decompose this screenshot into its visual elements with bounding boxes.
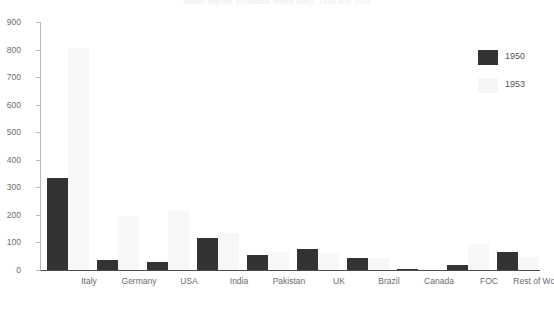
x-axis-line: [40, 270, 540, 271]
bar-group: [47, 22, 89, 270]
y-axis-tick-label: 800: [0, 46, 21, 55]
bar: [297, 249, 318, 270]
y-axis-tick: [36, 160, 41, 161]
y-axis-line: [40, 22, 41, 270]
y-axis-tick: [36, 270, 41, 271]
x-axis-tick-label: Rest of World: [494, 276, 554, 286]
y-axis-tick: [36, 242, 41, 243]
bar-group: [297, 22, 339, 270]
bar: [497, 252, 518, 270]
y-axis-tick: [36, 22, 41, 23]
bar: [347, 258, 368, 270]
bar-group: [247, 22, 289, 270]
y-axis-tick-label: 600: [0, 101, 21, 110]
bar-group: [397, 22, 439, 270]
light-swatch: [478, 78, 498, 93]
bar-chart: Wheat imports (thousand metric tons), 19…: [0, 0, 554, 309]
bar-group: [347, 22, 389, 270]
bar: [168, 211, 189, 270]
bar: [397, 269, 418, 270]
y-axis-tick-label: 700: [0, 73, 21, 82]
bar: [68, 48, 89, 270]
y-axis-tick-label: 300: [0, 183, 21, 192]
y-axis-tick: [36, 187, 41, 188]
bar-group: [147, 22, 189, 270]
bar: [268, 252, 289, 270]
y-axis-tick-label: 0: [0, 266, 21, 275]
y-axis-tick: [36, 50, 41, 51]
y-axis-tick-label: 400: [0, 156, 21, 165]
bar-group: [197, 22, 239, 270]
y-axis-tick: [36, 105, 41, 106]
bar: [197, 238, 218, 270]
legend-label: 1953: [505, 79, 525, 89]
bar: [447, 265, 468, 271]
bar: [318, 253, 339, 270]
bar: [118, 216, 139, 270]
legend-label: 1950: [505, 51, 525, 61]
bar: [97, 260, 118, 270]
y-axis-tick-label: 100: [0, 238, 21, 247]
bar: [518, 257, 539, 270]
bar: [368, 258, 389, 270]
plot-area: 9008007006005004003002001000 ItalyGerman…: [40, 22, 540, 270]
bar: [418, 269, 439, 270]
y-axis-tick-label: 900: [0, 18, 21, 27]
chart-title: Wheat imports (thousand metric tons), 19…: [0, 0, 554, 6]
y-axis-tick: [36, 215, 41, 216]
bar: [468, 244, 489, 270]
bar: [247, 255, 268, 270]
bar: [47, 178, 68, 270]
y-axis-tick-label: 200: [0, 211, 21, 220]
dark-swatch: [478, 50, 498, 65]
bar-group: [97, 22, 139, 270]
y-axis-tick: [36, 132, 41, 133]
y-axis-tick-label: 500: [0, 128, 21, 137]
bar: [147, 262, 168, 270]
y-axis-tick: [36, 77, 41, 78]
bar: [218, 233, 239, 270]
